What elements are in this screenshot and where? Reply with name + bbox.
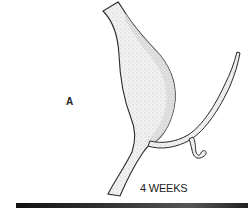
embryology-diagram: A 4 WEEKS: [0, 0, 248, 208]
panel-label: A: [66, 96, 73, 107]
tracheal-bud-illustration: [0, 0, 248, 208]
stage-label: 4 WEEKS: [140, 182, 188, 194]
bottom-divider-bar: [16, 203, 248, 208]
primitive-sac-shape: [103, 2, 175, 196]
bifurcation-shape: [189, 137, 206, 158]
